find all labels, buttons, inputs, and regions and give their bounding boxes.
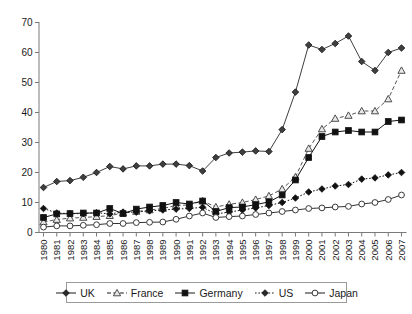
series-point [319,46,326,53]
series-point [332,115,339,121]
line-chart: 0102030405060701980198119821983198419851… [0,0,412,314]
x-tick-label: 1982 [65,240,76,261]
y-tick-label: 0 [27,227,33,238]
series-point [279,199,286,206]
x-tick-label: 1999 [290,240,301,261]
legend-item-france[interactable]: France [106,287,164,299]
x-tick-label: 2007 [396,240,407,261]
series-point [385,197,391,203]
x-tick-label: 1998 [144,240,155,261]
series-point [279,192,285,198]
series-point [253,212,259,218]
series-point [306,155,312,161]
series-point [160,219,166,225]
series-point [200,210,206,216]
series-point [332,40,339,47]
legend-item-label: Japan [329,287,358,299]
series-point [53,178,60,185]
series-point [94,222,100,228]
series-point [252,148,259,155]
x-tick-label: 1998 [277,240,288,261]
legend-marker-filled-diamond [55,287,77,299]
series-point [319,186,326,193]
series-point [358,58,365,65]
chart-plot-area: 0102030405060701980198119821983198419851… [0,0,412,314]
legend-item-label: US [279,287,294,299]
series-point [292,195,299,202]
y-tick-label: 30 [21,137,33,148]
series-point [107,221,113,227]
series-point [372,200,378,206]
series-point [345,112,352,118]
series-point [345,33,352,40]
series-point [186,162,193,169]
series-point [265,192,272,198]
series-point [80,174,87,181]
series-point [293,177,299,183]
legend-item-japan[interactable]: Japan [304,287,358,299]
legend-item-label: France [131,287,164,299]
legend-item-germany[interactable]: Germany [174,287,242,299]
series-point [319,205,325,211]
series-point [133,220,139,226]
series-line [44,36,402,188]
legend-item-uk[interactable]: UK [55,287,95,299]
series-point [67,177,74,184]
series-point [40,184,47,191]
series-point [67,223,73,229]
x-tick-label: 2001 [316,240,327,261]
x-tick-label: 2000 [303,240,314,261]
series-point [359,201,365,207]
series-point [398,45,405,52]
series-point [399,192,405,198]
series-point [106,163,113,170]
x-tick-label: 1992 [197,240,208,261]
series-point [239,149,246,156]
x-tick-label: 1990 [171,240,182,261]
chart-series-france [40,67,405,225]
series-point [346,204,352,210]
y-tick-label: 70 [21,17,33,28]
series-point [186,213,192,219]
legend-item-label: UK [80,287,95,299]
chart-series-uk [40,33,405,191]
series-point [332,183,339,190]
legend-item-us[interactable]: US [254,287,294,299]
series-point [120,221,126,227]
series-point [213,215,219,221]
series-point [318,125,325,131]
x-tick-label: 1989 [157,240,168,261]
series-point [147,219,153,225]
x-tick-label: 1995 [237,240,248,261]
legend-item-label: Germany [199,287,242,299]
x-tick-label: 1980 [38,240,49,261]
series-point [120,166,127,173]
series-point [385,172,392,179]
series-point [173,161,180,168]
series-point [146,163,153,170]
series-point [41,224,47,230]
series-line [44,120,402,218]
x-tick-label: 1987 [131,240,142,261]
x-tick-label: 2004 [356,240,367,261]
series-point [239,213,245,219]
chart-legend: UKFranceGermanyUSJapan [66,282,347,303]
y-tick-label: 60 [21,47,33,58]
x-axis-ticks: 1980198119821983198419851986198719981989… [38,233,407,261]
series-point [173,216,179,222]
series-point [133,163,140,170]
x-tick-label: 1996 [250,240,261,261]
series-line [44,71,402,223]
series-point [80,222,86,228]
series-point [306,206,312,212]
series-point [359,129,365,135]
y-tick-label: 10 [21,197,33,208]
series-point [358,107,365,113]
x-tick-label: 2005 [369,240,380,261]
series-point [266,210,272,216]
series-point [372,129,378,135]
series-point [332,204,338,210]
series-point [293,207,299,213]
series-point [332,129,338,135]
x-tick-label: 2006 [383,240,394,261]
